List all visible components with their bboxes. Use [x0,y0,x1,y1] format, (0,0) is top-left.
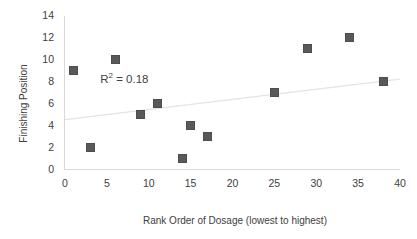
data-point[interactable] [136,110,145,119]
r2-annotation: R2 = 0.18 [100,71,148,85]
data-point[interactable] [86,143,95,152]
data-point[interactable] [379,77,388,86]
data-point[interactable] [178,154,187,163]
data-point[interactable] [345,33,354,42]
data-point[interactable] [203,132,212,141]
plot-axes-and-trendline [0,0,417,239]
data-point[interactable] [69,66,78,75]
data-point[interactable] [111,55,120,64]
data-point[interactable] [303,44,312,53]
data-point[interactable] [270,88,279,97]
data-point[interactable] [153,99,162,108]
data-point[interactable] [186,121,195,130]
scatter-chart: Finishing Position Rank Order of Dosage … [0,0,417,239]
